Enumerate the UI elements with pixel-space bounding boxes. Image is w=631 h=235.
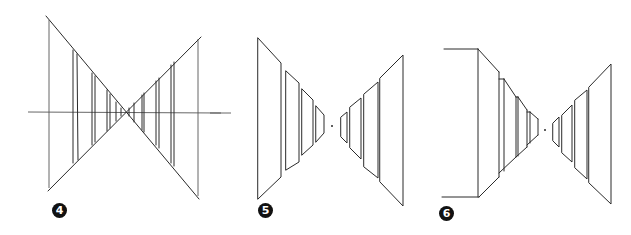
vanishing-point — [544, 129, 546, 131]
figure-6-badge: 6 — [439, 206, 454, 221]
diagonal-line-up — [48, 37, 201, 191]
left-panels — [258, 38, 324, 199]
figure-5-badge: 5 — [258, 203, 273, 218]
perspective-sketches — [0, 0, 631, 235]
diagonal-line-down — [46, 16, 199, 199]
figure-5-drawing — [210, 38, 403, 206]
right-panels — [341, 55, 403, 206]
figure-4-badge: 4 — [52, 203, 67, 218]
left-vertical-pairs — [73, 50, 121, 163]
horizon-line — [28, 112, 221, 113]
figure-6-drawing — [442, 49, 611, 204]
left-stepped-boxes — [442, 49, 538, 197]
figure-4-drawing — [28, 16, 221, 199]
right-panels — [553, 64, 611, 204]
right-vertical-pairs — [129, 62, 174, 166]
vanishing-point — [331, 125, 333, 127]
